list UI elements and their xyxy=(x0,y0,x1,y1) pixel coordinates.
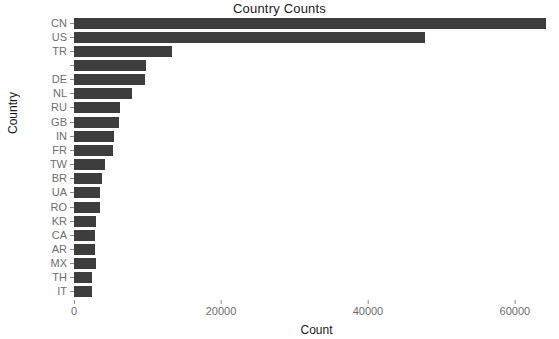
y-axis-tick: TR xyxy=(52,46,74,57)
y-axis-tick-mark xyxy=(70,178,74,179)
bar-fill xyxy=(74,32,425,43)
y-axis-tick-mark xyxy=(70,277,74,278)
y-axis-tick-label: CN xyxy=(51,18,67,29)
y-axis-tick: CA xyxy=(52,230,74,241)
bar xyxy=(74,244,95,255)
y-axis-tick-mark xyxy=(70,37,74,38)
y-axis-tick-mark xyxy=(70,79,74,80)
y-axis-tick-mark xyxy=(70,51,74,52)
bar xyxy=(74,145,113,156)
bar-fill xyxy=(74,74,145,85)
x-axis-tick: 20000 xyxy=(206,300,237,318)
x-axis-tick-label: 40000 xyxy=(353,305,384,318)
x-axis-tick: 0 xyxy=(71,300,77,318)
bar-fill xyxy=(74,202,100,213)
bar xyxy=(74,117,119,128)
y-axis-tick-label: US xyxy=(52,32,67,43)
chart-title: Country Counts xyxy=(0,1,559,16)
bar xyxy=(74,216,96,227)
y-axis-tick-label: IT xyxy=(57,286,67,297)
y-axis-tick: TW xyxy=(50,159,74,170)
x-axis-tick-label: 60000 xyxy=(500,305,531,318)
y-axis-tick: IT xyxy=(57,286,74,297)
y-axis-tick-mark xyxy=(70,122,74,123)
y-axis-tick-label: IN xyxy=(56,131,67,142)
x-axis-tick-mark xyxy=(220,300,221,304)
y-axis-tick: FR xyxy=(52,145,74,156)
y-axis-tick-label: CA xyxy=(52,230,67,241)
bar xyxy=(74,258,96,269)
bar-fill xyxy=(74,216,96,227)
x-axis-tick-mark xyxy=(367,300,368,304)
x-axis-tick-mark xyxy=(514,300,515,304)
y-axis-tick-label: TH xyxy=(52,272,67,283)
bar xyxy=(74,230,95,241)
bar xyxy=(74,131,114,142)
bar-fill xyxy=(74,46,172,57)
y-axis-tick: DE xyxy=(52,74,74,85)
bar-chart: Country Counts Country Count CNUSTRDENLR… xyxy=(0,0,559,339)
bar xyxy=(74,32,425,43)
y-axis-tick: GB xyxy=(51,117,74,128)
y-axis-tick: IN xyxy=(56,131,74,142)
y-axis-tick-label: GB xyxy=(51,117,67,128)
y-axis-tick-mark xyxy=(70,164,74,165)
y-axis-tick-mark xyxy=(70,150,74,151)
bar-fill xyxy=(74,131,114,142)
bar-fill xyxy=(74,88,132,99)
bar-fill xyxy=(74,286,92,297)
bar xyxy=(74,272,92,283)
bar-fill xyxy=(74,272,92,283)
y-axis-tick-mark xyxy=(70,249,74,250)
y-axis-tick-label: DE xyxy=(52,74,67,85)
y-axis-tick-label: MX xyxy=(51,258,68,269)
y-axis-tick: US xyxy=(52,32,74,43)
plot-area xyxy=(74,16,559,299)
y-axis-tick: MX xyxy=(51,258,75,269)
y-axis-tick-label: NL xyxy=(53,88,67,99)
y-axis-tick-mark xyxy=(70,235,74,236)
bar xyxy=(74,102,120,113)
y-axis-tick-mark xyxy=(70,136,74,137)
bar xyxy=(74,187,100,198)
y-axis-tick-label: BR xyxy=(52,173,67,184)
bar xyxy=(74,159,105,170)
y-axis-tick-label: AR xyxy=(52,244,67,255)
bar xyxy=(74,46,172,57)
bar-fill xyxy=(74,18,546,29)
y-axis-tick-label: TR xyxy=(52,46,67,57)
y-axis-tick-mark xyxy=(70,107,74,108)
x-axis-tick-label: 20000 xyxy=(206,305,237,318)
bar-fill xyxy=(74,117,119,128)
y-axis-tick-mark xyxy=(70,263,74,264)
y-axis-title: Country xyxy=(6,73,20,153)
y-axis-tick: TH xyxy=(52,272,74,283)
bar-fill xyxy=(74,230,95,241)
bar-fill xyxy=(74,187,100,198)
bar-fill xyxy=(74,159,105,170)
bar-fill xyxy=(74,258,96,269)
y-axis-tick-mark xyxy=(70,207,74,208)
bar xyxy=(74,173,102,184)
bar-fill xyxy=(74,145,113,156)
x-axis-tick: 40000 xyxy=(353,300,384,318)
x-axis-title: Count xyxy=(74,323,559,337)
y-axis-tick: BR xyxy=(52,173,74,184)
y-axis-tick-mark xyxy=(70,291,74,292)
bar-fill xyxy=(74,102,120,113)
y-axis-tick-label: TW xyxy=(50,159,67,170)
y-axis-tick-label: RO xyxy=(51,202,68,213)
y-axis-tick-mark xyxy=(70,23,74,24)
y-axis-tick: RO xyxy=(51,202,75,213)
y-axis-tick: RU xyxy=(51,102,74,113)
y-axis-tick-label: UA xyxy=(52,187,67,198)
bar xyxy=(74,286,92,297)
y-axis-tick-mark xyxy=(70,192,74,193)
y-axis-tick: KR xyxy=(52,216,74,227)
y-axis-tick-label: FR xyxy=(52,145,67,156)
bar xyxy=(74,202,100,213)
y-axis-tick: NL xyxy=(53,88,74,99)
x-axis-tick-mark xyxy=(74,300,75,304)
bar xyxy=(74,60,146,71)
bar-fill xyxy=(74,244,95,255)
